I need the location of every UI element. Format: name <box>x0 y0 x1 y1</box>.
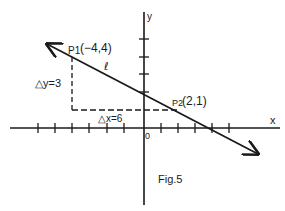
figure-caption: Fig.5 <box>158 173 182 185</box>
svg-text:P1: P1 <box>68 45 81 56</box>
point-p2-label: P2 (2,1) <box>172 94 207 108</box>
y-axis-label: y <box>147 11 152 22</box>
delta-x-label: △x=6 <box>98 113 123 124</box>
svg-text:(2,1): (2,1) <box>182 94 207 108</box>
delta-y-label: △y=3 <box>35 77 61 89</box>
svg-text:(−4,4): (−4,4) <box>80 41 112 55</box>
point-p1-label: P1 (−4,4) <box>68 41 112 56</box>
origin-label: 0 <box>145 131 150 141</box>
x-axis-label: x <box>270 114 276 126</box>
line-l-label: ℓ <box>103 60 109 73</box>
coordinate-figure: y x 0 ℓ P1 (−4,4) P2 (2,1) △y=3 △x=6 Fig… <box>0 0 285 211</box>
line-l <box>47 44 258 154</box>
